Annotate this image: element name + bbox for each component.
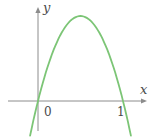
y-axis-arrowhead-icon (35, 7, 40, 13)
function-plot: y x 0 1 (0, 0, 158, 138)
x-intercept-tick-label: 1 (117, 105, 125, 119)
x-axis-label: x (140, 82, 148, 97)
plot-canvas: y x 0 1 (0, 0, 158, 138)
origin-tick-label: 0 (44, 105, 52, 119)
x-axis-arrowhead-icon (141, 98, 147, 103)
y-axis-label: y (42, 0, 51, 15)
